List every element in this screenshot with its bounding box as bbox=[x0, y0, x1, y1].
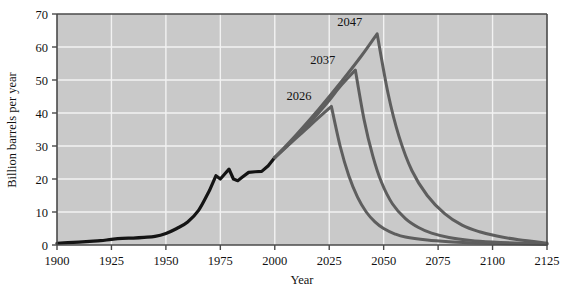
y-tick-label-70: 70 bbox=[36, 8, 49, 22]
x-tick-label-1975: 1975 bbox=[208, 254, 233, 268]
x-tick-label-1925: 1925 bbox=[99, 254, 124, 268]
x-tick-label-2025: 2025 bbox=[317, 254, 342, 268]
x-tick-label-1900: 1900 bbox=[45, 254, 70, 268]
x-axis-title: Year bbox=[290, 273, 314, 287]
y-tick-label-30: 30 bbox=[36, 140, 49, 154]
peak-label-2037: 2037 bbox=[310, 53, 335, 67]
peak-label-2026: 2026 bbox=[286, 89, 311, 103]
y-tick-label-40: 40 bbox=[36, 107, 49, 121]
y-tick-label-10: 10 bbox=[36, 206, 49, 220]
x-tick-label-2050: 2050 bbox=[371, 254, 396, 268]
x-tick-label-1950: 1950 bbox=[153, 254, 178, 268]
y-tick-label-50: 50 bbox=[36, 74, 49, 88]
y-tick-label-60: 60 bbox=[36, 41, 49, 55]
x-tick-label-2100: 2100 bbox=[480, 254, 505, 268]
peak-label-2047: 2047 bbox=[337, 15, 362, 29]
chart-container: 010203040506070 190019251950197520002025… bbox=[0, 0, 570, 291]
x-tick-label-2125: 2125 bbox=[535, 254, 560, 268]
y-tick-label-0: 0 bbox=[42, 239, 48, 253]
x-tick-label-2075: 2075 bbox=[426, 254, 451, 268]
x-tick-label-2000: 2000 bbox=[262, 254, 287, 268]
oil-production-line-chart: 010203040506070 190019251950197520002025… bbox=[0, 0, 570, 291]
y-axis-title: Billion barrels per year bbox=[5, 71, 19, 187]
y-tick-label-20: 20 bbox=[36, 173, 49, 187]
